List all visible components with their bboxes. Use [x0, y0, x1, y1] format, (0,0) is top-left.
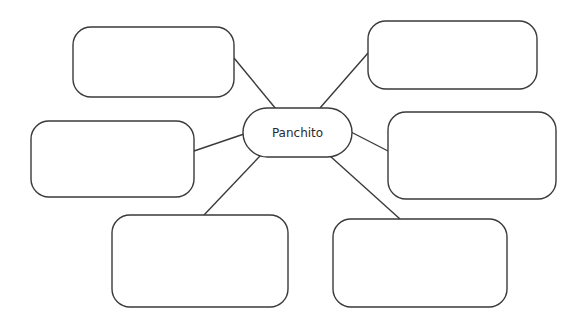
connector-middle-right	[351, 132, 388, 151]
box-middle-right-text[interactable]	[388, 112, 556, 199]
connector-top-left	[234, 58, 276, 109]
connector-top-right	[320, 53, 368, 108]
box-middle-left-text[interactable]	[31, 121, 194, 197]
box-bottom-left-text[interactable]	[112, 215, 288, 307]
connector-bottom-left	[204, 156, 260, 215]
box-top-right-text[interactable]	[368, 21, 537, 89]
center-node-label: Panchito	[243, 108, 352, 157]
box-top-left-text[interactable]	[73, 27, 234, 97]
box-bottom-right-text[interactable]	[333, 219, 507, 307]
connector-middle-left	[194, 134, 244, 151]
